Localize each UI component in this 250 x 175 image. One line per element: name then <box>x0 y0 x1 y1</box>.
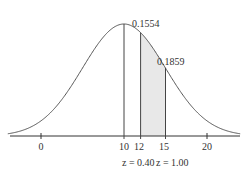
tick-label-15: 15 <box>159 141 169 152</box>
tick-label-20: 20 <box>202 141 212 152</box>
normal-distribution-chart: 0.1554 0.1859 0 10 12 15 20 z = 0.40 z =… <box>0 0 250 175</box>
tick-label-0: 0 <box>39 141 44 152</box>
z-label-2: z = 1.00 <box>156 157 189 168</box>
tick-label-12: 12 <box>134 141 144 152</box>
tick-label-10: 10 <box>119 141 129 152</box>
area-label-1: 0.1554 <box>132 18 160 29</box>
z-label-1: z = 0.40 <box>122 157 155 168</box>
area-label-2: 0.1859 <box>157 56 185 67</box>
